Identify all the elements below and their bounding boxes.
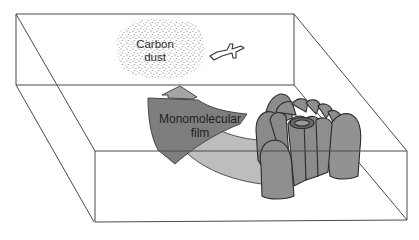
airplane-icon [210,44,244,60]
monomolecular-film-label-line1: Monomolecular [150,113,250,125]
carbon-dust-label-line2: dust [135,52,175,64]
carbon-dust-label-line1: Carbon [135,39,175,51]
cylindrical-cell-cluster [256,94,361,199]
monomolecular-film-label-line2: film [150,127,250,139]
